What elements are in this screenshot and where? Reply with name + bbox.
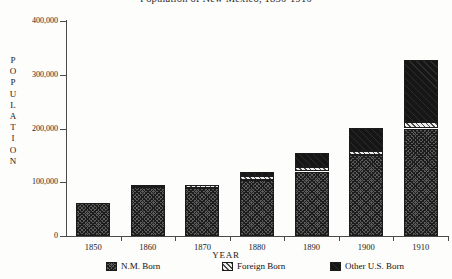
bar-segment-n-m-born bbox=[240, 180, 274, 236]
y-axis-tick bbox=[60, 21, 67, 22]
bar-1890[interactable] bbox=[295, 21, 329, 236]
legend-label: Other U.S. Born bbox=[345, 261, 404, 271]
x-axis-line bbox=[66, 236, 448, 237]
legend-label: Foreign Born bbox=[237, 261, 285, 271]
y-axis-tick bbox=[60, 236, 67, 237]
bar-segment-foreign-born bbox=[404, 122, 438, 129]
legend-swatch-icon bbox=[222, 262, 233, 271]
bar-1870[interactable] bbox=[185, 21, 219, 236]
x-axis-tick-label: 1860 bbox=[126, 242, 170, 252]
chart-figure: Population of New Mexico, 1850-1910 POPU… bbox=[0, 0, 452, 279]
bar-segment-foreign-born bbox=[295, 167, 329, 171]
bar-segment-other-u-s-born bbox=[295, 153, 329, 168]
bar-1850[interactable] bbox=[76, 21, 110, 236]
y-axis-tick-label: 400,000 bbox=[14, 16, 58, 25]
x-axis-tick-label: 1850 bbox=[71, 242, 115, 252]
x-axis-tick bbox=[230, 236, 231, 241]
bar-segment-foreign-born bbox=[240, 176, 274, 180]
bar-segment-other-u-s-born bbox=[240, 172, 274, 176]
bar-segment-foreign-born bbox=[185, 185, 219, 187]
chart-legend: N.M. BornForeign BornOther U.S. Born bbox=[0, 261, 452, 277]
bar-segment-n-m-born bbox=[76, 203, 110, 236]
legend-swatch-icon bbox=[106, 262, 117, 271]
bar-segment-n-m-born bbox=[185, 188, 219, 236]
x-axis-tick-label: 1890 bbox=[290, 242, 334, 252]
bar-segment-other-u-s-born bbox=[404, 60, 438, 121]
bar-segment-foreign-born bbox=[349, 151, 383, 155]
y-axis-tick-label: 200,000 bbox=[14, 124, 58, 133]
legend-item-other-u-s-born[interactable]: Other U.S. Born bbox=[330, 261, 404, 271]
x-axis-tick bbox=[339, 236, 340, 241]
y-axis-tick bbox=[60, 129, 67, 130]
y-axis-tick-label: 300,000 bbox=[14, 70, 58, 79]
legend-item-n-m-born[interactable]: N.M. Born bbox=[106, 261, 160, 271]
y-axis-tick-labels: 0100,000200,000300,000400,000 bbox=[8, 0, 58, 279]
y-axis-tick bbox=[60, 182, 67, 183]
bar-segment-foreign-born bbox=[131, 185, 165, 187]
x-axis-tick bbox=[393, 236, 394, 241]
bar-1880[interactable] bbox=[240, 21, 274, 236]
x-axis-tick bbox=[121, 236, 122, 241]
x-axis-tick bbox=[448, 236, 449, 241]
x-axis-tick bbox=[284, 236, 285, 241]
bar-segment-n-m-born bbox=[349, 155, 383, 236]
x-axis-tick bbox=[175, 236, 176, 241]
bar-segment-n-m-born bbox=[295, 172, 329, 237]
bar-segment-other-u-s-born bbox=[349, 128, 383, 151]
x-axis-tick-label: 1870 bbox=[180, 242, 224, 252]
chart-title: Population of New Mexico, 1850-1910 bbox=[0, 0, 452, 4]
bar-1860[interactable] bbox=[131, 21, 165, 236]
bar-segment-n-m-born bbox=[131, 187, 165, 236]
x-axis-tick-label: 1910 bbox=[399, 242, 443, 252]
legend-swatch-icon bbox=[330, 262, 341, 271]
bar-1900[interactable] bbox=[349, 21, 383, 236]
legend-label: N.M. Born bbox=[121, 261, 160, 271]
y-axis-tick-label: 0 bbox=[14, 231, 58, 240]
legend-item-foreign-born[interactable]: Foreign Born bbox=[222, 261, 285, 271]
bar-1910[interactable] bbox=[404, 21, 438, 236]
x-axis-tick-label: 1880 bbox=[235, 242, 279, 252]
y-axis-tick-label: 100,000 bbox=[14, 177, 58, 186]
bar-segment-n-m-born bbox=[404, 129, 438, 237]
x-axis-tick-label: 1900 bbox=[344, 242, 388, 252]
y-axis-tick bbox=[60, 75, 67, 76]
